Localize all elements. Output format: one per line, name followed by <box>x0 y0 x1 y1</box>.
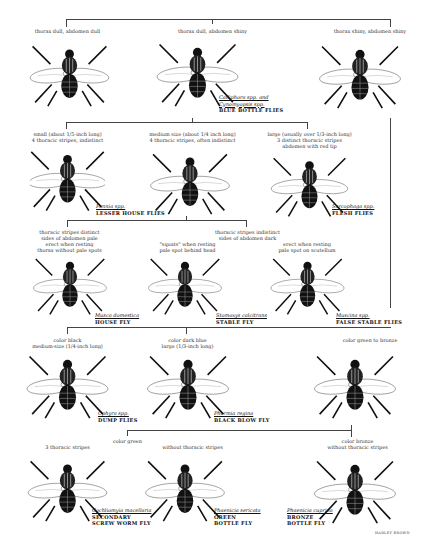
scientific-name: Muscina spp. <box>336 312 370 318</box>
branch-line-l2 <box>192 118 193 123</box>
house-fly-caption: Musca domestica HOUSE FLY <box>95 312 139 325</box>
common-name: BLACK BLOW FLY <box>214 417 270 423</box>
branch-line-l1 <box>66 19 391 20</box>
label-medium-size: medium size (about 1/4 inch long) 4 thor… <box>140 131 245 143</box>
secondary-screw-worm-fly-caption: Cochliomyia macellaria SECONDARY SCREW W… <box>92 507 151 527</box>
common-name: HOUSE FLY <box>95 319 131 325</box>
branch-line-l3 <box>67 220 68 227</box>
label-without-thoracic-stripes: without thoracic stripes <box>150 444 235 450</box>
dump-flies-caption: Ophyra spp. DUMP FLIES <box>98 410 138 423</box>
branch-line-l5 <box>351 425 352 437</box>
common-name: SECONDARY SCREW WORM FLY <box>92 514 151 527</box>
label-thorax-shiny-abdomen-shiny: thorax shiny, abdomen shiny <box>325 28 415 34</box>
common-name: FALSE STABLE FLIES <box>336 319 402 325</box>
common-name: STABLE FLY <box>216 319 254 325</box>
lesser-house-fly-illustration <box>30 145 105 215</box>
scientific-name: Sarcophaga spp. <box>332 203 374 209</box>
common-name: GREEN BOTTLE FLY <box>214 514 252 527</box>
branch-line-l2 <box>66 122 67 129</box>
common-name: LESSER HOUSE FLIES <box>96 210 165 216</box>
lesser-house-flies-caption: Fannia spp. LESSER HOUSE FLIES <box>96 203 165 216</box>
green-bottle-fly-caption: Phaenicia sericata GREEN BOTTLE FLY <box>214 507 261 527</box>
house-fly-illustration <box>25 253 115 318</box>
label-large-size: large (usually over 1/3-inch long) 3 dis… <box>262 131 357 149</box>
branch-line-l4 <box>67 327 68 334</box>
label-stripes-distinct: thoracic stripes distinct sides of abdom… <box>22 229 117 253</box>
branch-line-l1 <box>390 19 391 27</box>
scientific-name: Phaenicia sericata <box>214 507 261 513</box>
stable-fly-illustration <box>140 253 230 318</box>
branch-line-right <box>390 118 391 308</box>
label-erect-when-resting: erect when resting pale spot on scutellu… <box>262 241 352 253</box>
scientific-name: Cochliomyia macellaria <box>92 507 151 513</box>
blue-bottle-flies-caption: Calliphora spp. and Cynomyopsis spp. BLU… <box>219 94 283 114</box>
black-blow-fly-caption: Phormia regina BLACK BLOW FLY <box>214 410 270 423</box>
branch-line-l2 <box>66 122 308 123</box>
label-thorax-dull-abdomen-dull: thorax dull, abdomen dull <box>30 28 105 34</box>
label-color-bronze: color bronze without thoracic stripes <box>310 438 405 450</box>
branch-line-l5 <box>127 430 352 431</box>
label-squats-when-resting: "squats" when resting pale spot behind h… <box>145 241 230 253</box>
label-color-dark-blue: color dark blue large (1/3-inch long) <box>145 337 230 349</box>
false-stable-flies-caption: Muscina spp. FALSE STABLE FLIES <box>336 312 402 325</box>
artist-credit: HARLEY BROWN <box>375 531 410 535</box>
branch-line-l4 <box>186 327 187 334</box>
label-stripes-indistinct: thoracic stripes indistinct sides of abd… <box>205 229 290 241</box>
label-color-black: color black medium-size (1/4-inch long) <box>25 337 110 349</box>
branch-line-l1 <box>66 19 67 27</box>
label-3-thoracic-stripes: 3 thoracic stripes <box>35 444 100 450</box>
label-color-green: color green <box>100 438 155 444</box>
scientific-name: Musca domestica <box>95 312 139 318</box>
scientific-name: Phormia regina <box>214 410 253 416</box>
false-stable-fly-illustration <box>260 253 355 318</box>
common-name: DUMP FLIES <box>98 417 138 423</box>
scientific-name: Ophyra spp. <box>98 410 129 416</box>
common-name: BLUE BOTTLE FLIES <box>219 107 283 113</box>
scientific-name: Stomoxys calcitrans <box>216 312 267 318</box>
common-name: BRONZE BOTTLE FLY <box>287 514 325 527</box>
scientific-name: Calliphora spp. and Cynomyopsis spp. <box>219 94 269 107</box>
branch-line-l2 <box>307 122 308 129</box>
label-color-green-to-bronze: color green to bronze <box>325 337 415 343</box>
branch-line-l1 <box>212 19 213 24</box>
scientific-name: Fannia spp. <box>96 203 125 209</box>
common-name: FLESH FLIES <box>332 210 373 216</box>
stable-fly-caption: Stomoxys calcitrans STABLE FLY <box>216 312 267 325</box>
fly-illustration <box>305 350 405 422</box>
branch-line-l3 <box>67 220 247 221</box>
branch-line-l3 <box>186 216 187 221</box>
branch-line-l3 <box>246 220 247 227</box>
flesh-flies-caption: Sarcophaga spp. FLESH FLIES <box>332 203 374 216</box>
fly-illustration <box>22 40 117 110</box>
bronze-bottle-fly-caption: Phaenicia cuprina BRONZE BOTTLE FLY <box>287 507 333 527</box>
fly-illustration <box>310 40 410 112</box>
scientific-name: Phaenicia cuprina <box>287 507 333 513</box>
label-thorax-dull-abdomen-shiny: thorax dull, abdomen shiny <box>155 28 270 34</box>
branch-line-l4 <box>67 327 391 328</box>
label-small-size: small (about 1/5-inch long) 4 thoracic s… <box>20 131 115 143</box>
branch-line-l5 <box>127 430 128 436</box>
